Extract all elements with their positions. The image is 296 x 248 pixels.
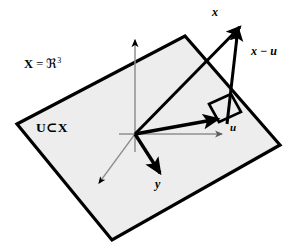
ambient-space-equals: = — [33, 57, 46, 71]
vector-y-label: y — [155, 178, 160, 190]
vector-u-label: u — [230, 122, 236, 133]
ambient-space-symbol: X — [24, 57, 33, 71]
vector-x-minus-u-label: x − u — [251, 45, 277, 57]
subspace-label: U⊂X — [36, 121, 68, 135]
ambient-space-exponent: 3 — [57, 56, 61, 65]
fraktur-r-icon: ℜ — [46, 56, 57, 71]
vector-x-label: x — [212, 6, 218, 18]
vector-projection-figure: X = ℜ3 U⊂X x x − u u y — [0, 0, 296, 248]
ambient-space-label: X = ℜ3 — [24, 57, 61, 71]
